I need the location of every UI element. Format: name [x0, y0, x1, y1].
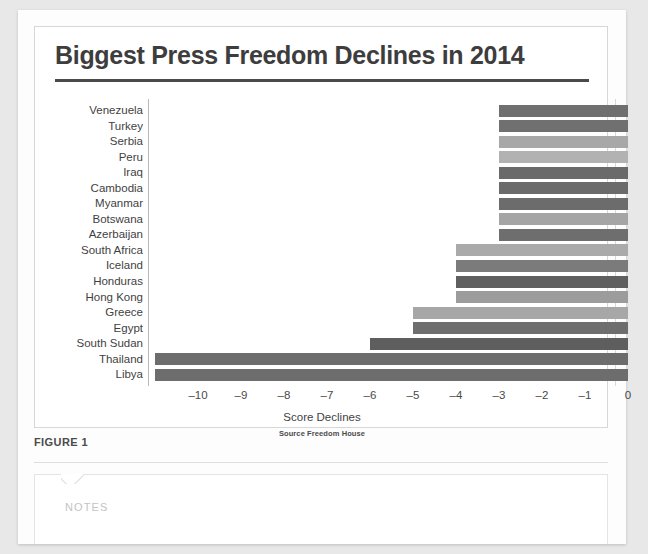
chart-plot-area: VenezuelaTurkeySerbiaPeruIraqCambodiaMya… — [35, 89, 609, 429]
bar-row: Cambodia — [35, 181, 609, 197]
bar-category-label: Azerbaijan — [89, 227, 143, 242]
x-axis-tick-label: 0 — [625, 389, 631, 401]
bar — [499, 105, 628, 117]
bar-category-label: Thailand — [99, 352, 143, 367]
bar — [370, 338, 628, 350]
bar-category-label: Venezuela — [89, 103, 143, 118]
bar — [499, 198, 628, 210]
bar-category-label: South Africa — [81, 243, 143, 258]
bar-category-label: Egypt — [114, 321, 143, 336]
bar-row: Libya — [35, 367, 609, 383]
caption-divider — [34, 462, 608, 463]
bar-row: Hong Kong — [35, 290, 609, 306]
x-axis-tick-label: –7 — [321, 389, 334, 401]
bar-category-label: Serbia — [110, 134, 143, 149]
bar — [155, 353, 628, 365]
bar-category-label: Hong Kong — [85, 290, 143, 305]
bar — [456, 276, 628, 288]
bar — [499, 120, 628, 132]
bar — [155, 369, 628, 381]
bar — [456, 260, 628, 272]
bar-category-label: Iraq — [123, 165, 143, 180]
x-axis-tick-label: –4 — [450, 389, 463, 401]
bar-row: Iraq — [35, 165, 609, 181]
bar — [499, 136, 628, 148]
bar — [499, 213, 628, 225]
bar-row: Iceland — [35, 258, 609, 274]
bar-row: South Sudan — [35, 336, 609, 352]
document-sheet: Biggest Press Freedom Declines in 2014 V… — [18, 10, 626, 544]
x-axis-label: Score Declines — [35, 411, 609, 423]
bar-category-label: Botswana — [92, 212, 143, 227]
bar — [456, 244, 628, 256]
x-axis-tick-label: –5 — [407, 389, 420, 401]
x-axis-tick-label: –10 — [188, 389, 207, 401]
bar-category-label: Iceland — [106, 258, 143, 273]
bar — [413, 307, 628, 319]
notes-placeholder-label: NOTES — [65, 501, 108, 513]
bar-category-label: South Sudan — [76, 336, 143, 351]
bar-series: VenezuelaTurkeySerbiaPeruIraqCambodiaMya… — [35, 103, 609, 383]
bar-row: Turkey — [35, 119, 609, 135]
figure-caption: FIGURE 1 — [34, 436, 88, 448]
x-axis-tick-label: –8 — [278, 389, 291, 401]
bar — [413, 322, 628, 334]
bar — [499, 151, 628, 163]
notes-panel[interactable]: NOTES — [34, 474, 608, 544]
x-axis-tick-label: –9 — [235, 389, 248, 401]
bar-category-label: Honduras — [93, 274, 143, 289]
bar-row: Serbia — [35, 134, 609, 150]
bar-category-label: Turkey — [108, 119, 143, 134]
bar-row: Thailand — [35, 352, 609, 368]
bar-category-label: Peru — [119, 150, 143, 165]
bar-category-label: Myanmar — [95, 196, 143, 211]
bar-row: Myanmar — [35, 196, 609, 212]
bar-row: Venezuela — [35, 103, 609, 119]
x-axis-tick-label: –6 — [364, 389, 377, 401]
bar-row: Botswana — [35, 212, 609, 228]
bar-row: Azerbaijan — [35, 227, 609, 243]
bar — [499, 229, 628, 241]
bar-row: Greece — [35, 305, 609, 321]
bar-category-label: Greece — [105, 305, 143, 320]
x-axis-tick-label: –3 — [493, 389, 506, 401]
bar — [499, 167, 628, 179]
bar-row: Peru — [35, 150, 609, 166]
title-divider — [55, 79, 589, 82]
bar-category-label: Cambodia — [91, 181, 143, 196]
bar-row: Honduras — [35, 274, 609, 290]
x-axis-tick-label: –2 — [536, 389, 549, 401]
x-axis-tick-label: –1 — [579, 389, 592, 401]
bar — [499, 182, 628, 194]
bar — [456, 291, 628, 303]
figure-card: Biggest Press Freedom Declines in 2014 V… — [34, 26, 608, 428]
notes-notch-decoration — [61, 474, 87, 484]
bar-row: Egypt — [35, 321, 609, 337]
bar-category-label: Libya — [116, 367, 144, 382]
bar-row: South Africa — [35, 243, 609, 259]
x-axis-ticks: –10–9–8–7–6–5–4–3–2–10 — [35, 389, 609, 405]
chart-source-note: Source Freedom House — [35, 429, 609, 438]
chart-title: Biggest Press Freedom Declines in 2014 — [55, 41, 589, 70]
